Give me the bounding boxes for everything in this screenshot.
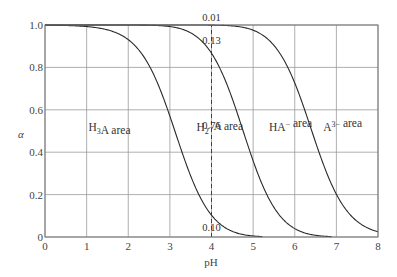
y-tick-label: 1.0 — [29, 19, 43, 31]
x-tick-label: 3 — [167, 240, 173, 252]
x-tick-label: 5 — [250, 240, 256, 252]
x-tick-label: 6 — [292, 240, 298, 252]
region-label: HA− area — [269, 117, 312, 133]
value-annotation: 0.76 — [202, 120, 220, 131]
y-axis-label: α — [18, 128, 24, 140]
x-tick-label: 1 — [84, 240, 90, 252]
y-tick-labels: 00.20.40.60.81.0 — [29, 19, 43, 243]
y-tick-label: 0.2 — [29, 189, 43, 201]
x-tick-labels: 012345678 — [42, 240, 381, 252]
distribution-chart: 012345678 00.20.40.60.81.0 H3A areaH2−A … — [0, 0, 397, 277]
region-label: A3− area — [323, 117, 362, 133]
y-tick-label: 0.4 — [29, 146, 43, 158]
x-axis-label: pH — [204, 256, 218, 268]
y-tick-label: 0 — [38, 231, 44, 243]
value-annotation: 0.01 — [202, 12, 220, 23]
x-tick-label: 4 — [209, 240, 215, 252]
x-tick-label: 0 — [42, 240, 48, 252]
x-tick-label: 7 — [334, 240, 340, 252]
x-tick-label: 8 — [375, 240, 381, 252]
region-labels: H3A areaH2−A areaHA− areaA3− area — [89, 117, 363, 136]
value-annotation: 0.10 — [202, 222, 220, 233]
region-label: H3A area — [89, 121, 131, 136]
y-tick-label: 0.6 — [29, 104, 43, 116]
y-tick-label: 0.8 — [29, 61, 43, 73]
x-tick-label: 2 — [126, 240, 132, 252]
value-annotation: 0.13 — [202, 35, 220, 46]
